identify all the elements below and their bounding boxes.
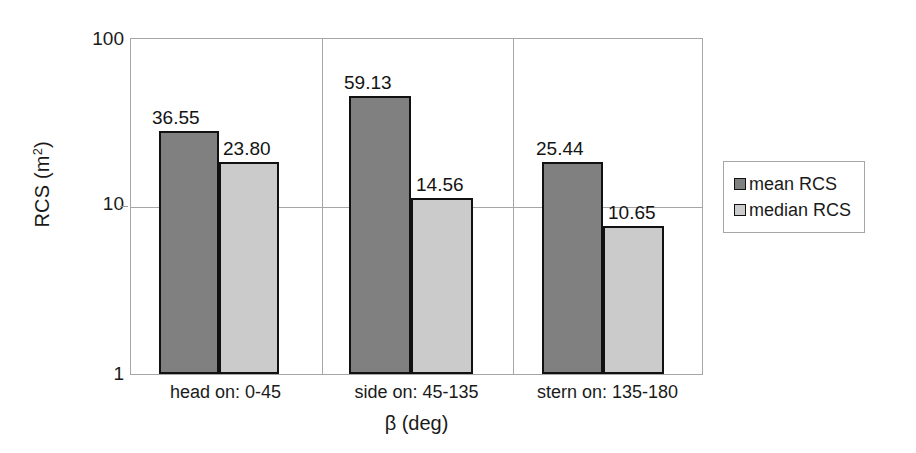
bar-mean-head-on — [159, 131, 219, 374]
chart-figure: RCS (m2) 100 10 1 36.55 23.80 59.13 14.5… — [0, 0, 916, 453]
x-tick-label-head-on: head on: 0-45 — [130, 382, 321, 402]
bar-label-median-head-on: 23.80 — [223, 139, 271, 158]
x-tick-label-stern-on: stern on: 135-180 — [512, 382, 703, 402]
legend-item-mean-rcs: mean RCS — [734, 171, 851, 197]
y-tick-label-100: 100 — [66, 29, 124, 48]
legend-swatch-icon-mean — [734, 178, 746, 190]
legend-label-median: median RCS — [749, 201, 851, 219]
legend-item-median-rcs: median RCS — [734, 197, 851, 223]
bar-median-side-on — [411, 198, 473, 374]
y-tick-label-1: 1 — [66, 364, 124, 383]
y-axis-title-tail: ) — [31, 141, 53, 148]
x-axis-title: β (deg) — [130, 412, 703, 435]
category-divider-2 — [513, 39, 514, 374]
bar-label-median-stern-on: 10.65 — [608, 203, 656, 222]
legend-label-mean: mean RCS — [749, 175, 837, 193]
bar-mean-stern-on — [542, 162, 603, 374]
y-axis-title-exponent: 2 — [30, 148, 45, 155]
bar-mean-side-on — [349, 96, 411, 374]
bar-label-mean-side-on: 59.13 — [344, 73, 392, 92]
x-tick-label-side-on: side on: 45-135 — [321, 382, 512, 402]
bar-label-mean-stern-on: 25.44 — [536, 139, 584, 158]
y-axis-title-base: RCS (m — [31, 155, 53, 227]
y-axis-title: RCS (m2) — [30, 94, 55, 274]
plot-area: 36.55 23.80 59.13 14.56 25.44 10.65 — [130, 38, 703, 375]
y-tick-label-10: 10 — [66, 194, 124, 213]
legend-swatch-icon-median — [734, 204, 746, 216]
y-axis-ticks: 100 10 1 — [62, 0, 124, 453]
bar-median-stern-on — [603, 226, 664, 374]
chart-legend: mean RCS median RCS — [723, 161, 865, 233]
y-tick-mark-10 — [120, 206, 128, 207]
category-divider-1 — [322, 39, 323, 374]
bar-median-head-on — [219, 162, 279, 374]
bar-label-mean-head-on: 36.55 — [152, 108, 200, 127]
bar-label-median-side-on: 14.56 — [416, 175, 464, 194]
